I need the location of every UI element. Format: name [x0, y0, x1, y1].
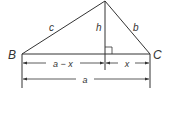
- side-label-c: c: [49, 22, 54, 33]
- vertex-label-b: B: [8, 48, 16, 62]
- dim-label-x: x: [124, 59, 130, 69]
- side-c: [22, 1, 105, 54]
- vertex-label-c: C: [153, 48, 162, 62]
- right-angle-marker: [105, 47, 112, 54]
- dim-label-a: a: [82, 75, 87, 85]
- side-label-b: b: [133, 22, 139, 33]
- dim-label-a-minus-x: a − x: [53, 59, 73, 69]
- side-b: [105, 1, 150, 54]
- side-label-h: h: [96, 22, 102, 33]
- triangle-diagram: B C c b h a − x x a: [0, 0, 172, 118]
